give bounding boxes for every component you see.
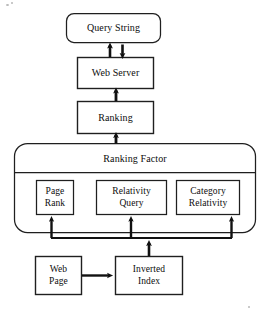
node-query-string[interactable] (67, 14, 161, 43)
diagram-canvas: Query String Web Server Ranking Ranking … (0, 0, 270, 313)
inverted-index-shape (116, 257, 183, 295)
ranking-shape (78, 102, 154, 134)
category-relativity-shape (177, 181, 240, 215)
scan-speck (248, 306, 250, 308)
page-rank-shape (37, 181, 74, 215)
node-relativity-query[interactable] (97, 181, 167, 215)
relativity-query-shape (97, 181, 167, 215)
node-ranking[interactable] (78, 102, 154, 134)
web-server-shape (78, 58, 154, 89)
node-inverted-index[interactable] (116, 257, 183, 295)
query-string-shape (67, 14, 161, 43)
node-web-server[interactable] (78, 58, 154, 89)
node-page-rank[interactable] (37, 181, 74, 215)
diagram-vector-layer (0, 0, 270, 313)
web-page-shape (36, 257, 82, 295)
scan-speck (6, 4, 9, 6)
node-category-relativity[interactable] (177, 181, 240, 215)
node-web-page[interactable] (36, 257, 82, 295)
scan-speck (11, 2, 13, 4)
